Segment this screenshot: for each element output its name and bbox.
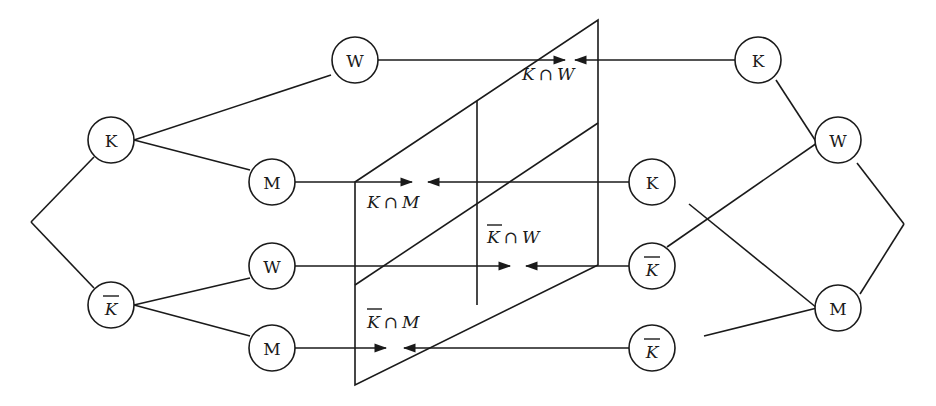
svg-text:M: M bbox=[829, 299, 846, 319]
label-kbar-and-w: K∩W bbox=[486, 225, 541, 247]
svg-text:M: M bbox=[263, 173, 280, 193]
svg-text:M: M bbox=[263, 339, 280, 359]
svg-text:K: K bbox=[645, 260, 660, 280]
node-right-m-k: K bbox=[629, 159, 675, 205]
node-right-w-kbar: K bbox=[629, 243, 675, 289]
svg-text:K∩W: K∩W bbox=[486, 227, 541, 247]
node-right-m: M bbox=[815, 285, 861, 331]
svg-text:K: K bbox=[646, 173, 659, 193]
node-left-kbar-m: M bbox=[249, 325, 295, 371]
node-right-w-k: K bbox=[735, 37, 781, 83]
svg-text:K: K bbox=[645, 342, 660, 362]
svg-text:K: K bbox=[105, 131, 118, 151]
svg-text:W: W bbox=[829, 131, 847, 151]
node-right-w: W bbox=[815, 117, 861, 163]
svg-text:K∩W: K∩W bbox=[521, 64, 576, 84]
node-left-k-w: W bbox=[332, 37, 378, 83]
left-tree-edges bbox=[31, 75, 331, 336]
node-left-k-m: M bbox=[249, 159, 295, 205]
arrows bbox=[295, 60, 735, 348]
tree-intersection-diagram: K∩W K∩M K∩W K∩M K W M K W M W bbox=[0, 0, 936, 406]
label-k-and-w: K∩W bbox=[521, 64, 576, 84]
svg-text:K∩M: K∩M bbox=[366, 312, 420, 332]
svg-text:K∩M: K∩M bbox=[366, 192, 420, 212]
right-tree-edges bbox=[667, 80, 904, 336]
label-k-and-m: K∩M bbox=[366, 192, 420, 212]
svg-text:K: K bbox=[752, 51, 765, 71]
svg-text:K: K bbox=[104, 299, 119, 319]
node-left-kbar: K bbox=[88, 282, 134, 328]
svg-text:W: W bbox=[346, 51, 364, 71]
node-right-m-kbar: K bbox=[629, 325, 675, 371]
svg-text:W: W bbox=[263, 257, 281, 277]
node-left-kbar-w: W bbox=[249, 243, 295, 289]
label-kbar-and-m: K∩M bbox=[366, 309, 420, 332]
node-left-k: K bbox=[88, 117, 134, 163]
